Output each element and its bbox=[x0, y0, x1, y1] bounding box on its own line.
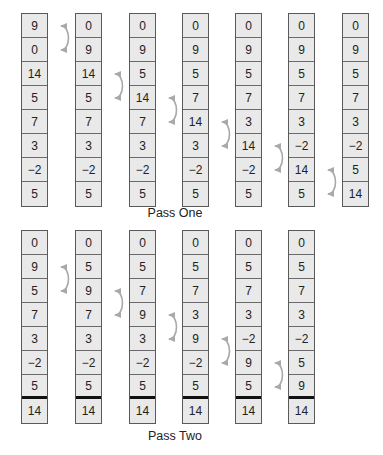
pass-one-column-7: 0 9 5 7 3 −2 5 14 bbox=[342, 13, 369, 207]
array-cell: 9 bbox=[76, 279, 101, 303]
array-cell: 0 bbox=[343, 14, 368, 38]
array-cell: 7 bbox=[22, 110, 47, 134]
array-cell: 0 bbox=[236, 14, 261, 38]
array-cell: −2 bbox=[236, 327, 261, 351]
swap-arrow-icon bbox=[61, 267, 69, 291]
array-cell: 5 bbox=[76, 86, 101, 110]
array-cell: 0 bbox=[289, 14, 314, 38]
pass-two-column-2: 0 5 9 7 3 −2 5 14 bbox=[75, 230, 102, 424]
pass-one-column-2: 0 9 14 5 7 3 −2 5 bbox=[75, 13, 102, 207]
array-cell: 14 bbox=[343, 182, 368, 206]
array-cell: 5 bbox=[22, 375, 47, 399]
array-cell: 3 bbox=[289, 110, 314, 134]
pass-two-column-3: 0 5 7 9 3 −2 5 14 bbox=[129, 230, 156, 424]
swap-arrow-icon bbox=[115, 291, 123, 315]
array-cell: −2 bbox=[130, 351, 155, 375]
array-cell: 3 bbox=[22, 134, 47, 158]
array-cell: 5 bbox=[289, 62, 314, 86]
array-cell: 7 bbox=[130, 110, 155, 134]
array-cell: 3 bbox=[183, 134, 208, 158]
array-cell: 9 bbox=[130, 303, 155, 327]
array-cell: 5 bbox=[130, 182, 155, 206]
array-cell: −2 bbox=[289, 327, 314, 351]
array-cell: 0 bbox=[130, 231, 155, 255]
pass-one-column-6: 0 9 5 7 3 −2 14 5 bbox=[288, 13, 315, 207]
array-cell: 5 bbox=[236, 255, 261, 279]
array-cell: 7 bbox=[183, 279, 208, 303]
array-cell: 5 bbox=[183, 375, 208, 399]
array-cell: 14 bbox=[289, 158, 314, 182]
pass-one-column-4: 0 9 5 7 14 3 −2 5 bbox=[182, 13, 209, 207]
array-cell: 3 bbox=[76, 327, 101, 351]
array-cell: 5 bbox=[289, 351, 314, 375]
sorted-array-cell: 14 bbox=[183, 399, 208, 423]
array-cell: 0 bbox=[289, 231, 314, 255]
array-cell: 3 bbox=[236, 110, 261, 134]
array-cell: 3 bbox=[343, 110, 368, 134]
swap-arrow-icon bbox=[222, 122, 230, 146]
array-cell: −2 bbox=[22, 351, 47, 375]
array-cell: −2 bbox=[343, 134, 368, 158]
sorted-array-cell: 14 bbox=[22, 399, 47, 423]
array-cell: 5 bbox=[236, 182, 261, 206]
array-cell: 3 bbox=[130, 134, 155, 158]
swap-arrow-icon bbox=[328, 170, 336, 194]
array-cell: 0 bbox=[22, 38, 47, 62]
array-cell: 5 bbox=[76, 255, 101, 279]
array-cell: 9 bbox=[289, 38, 314, 62]
array-cell: −2 bbox=[130, 158, 155, 182]
array-cell: 3 bbox=[183, 303, 208, 327]
array-cell: 5 bbox=[183, 62, 208, 86]
array-cell: 0 bbox=[76, 231, 101, 255]
array-cell: 9 bbox=[130, 38, 155, 62]
array-cell: 0 bbox=[76, 14, 101, 38]
array-cell: 5 bbox=[22, 86, 47, 110]
array-cell: −2 bbox=[76, 351, 101, 375]
array-cell: 5 bbox=[130, 375, 155, 399]
array-cell: 5 bbox=[183, 255, 208, 279]
array-cell: 3 bbox=[236, 303, 261, 327]
array-cell: 0 bbox=[130, 14, 155, 38]
array-cell: 5 bbox=[343, 62, 368, 86]
array-cell: 3 bbox=[76, 134, 101, 158]
array-cell: 14 bbox=[183, 110, 208, 134]
sorted-array-cell: 14 bbox=[236, 399, 261, 423]
array-cell: 0 bbox=[236, 231, 261, 255]
array-cell: 0 bbox=[22, 231, 47, 255]
array-cell: 14 bbox=[130, 86, 155, 110]
sorted-array-cell: 14 bbox=[130, 399, 155, 423]
pass-one-column-5: 0 9 5 7 3 14 −2 5 bbox=[235, 13, 262, 207]
swap-arrow-icon bbox=[169, 98, 177, 122]
array-cell: 9 bbox=[236, 351, 261, 375]
swap-arrow-icon bbox=[222, 339, 230, 363]
array-cell: 7 bbox=[289, 279, 314, 303]
pass-two-column-1: 0 9 5 7 3 −2 5 14 bbox=[21, 230, 48, 424]
array-cell: 7 bbox=[76, 303, 101, 327]
array-cell: 5 bbox=[183, 182, 208, 206]
array-cell: 7 bbox=[22, 303, 47, 327]
array-cell: 3 bbox=[130, 327, 155, 351]
pass-two-column-6: 0 5 7 3 −2 5 9 14 bbox=[288, 230, 315, 424]
array-cell: −2 bbox=[22, 158, 47, 182]
array-cell: 9 bbox=[343, 38, 368, 62]
array-cell: 5 bbox=[76, 375, 101, 399]
array-cell: 7 bbox=[236, 86, 261, 110]
array-cell: 5 bbox=[130, 255, 155, 279]
array-cell: 5 bbox=[289, 182, 314, 206]
array-cell: −2 bbox=[183, 351, 208, 375]
array-cell: 3 bbox=[289, 303, 314, 327]
array-cell: 5 bbox=[22, 279, 47, 303]
swap-arrow-icon bbox=[275, 363, 283, 387]
array-cell: −2 bbox=[236, 158, 261, 182]
swap-arrow-icon bbox=[275, 146, 283, 170]
array-cell: 14 bbox=[22, 62, 47, 86]
array-cell: −2 bbox=[76, 158, 101, 182]
array-cell: 14 bbox=[76, 62, 101, 86]
array-cell: 14 bbox=[236, 134, 261, 158]
pass-one-column-3: 0 9 5 14 7 3 −2 5 bbox=[129, 13, 156, 207]
array-cell: 7 bbox=[76, 110, 101, 134]
array-cell: 3 bbox=[22, 327, 47, 351]
pass-two-label: Pass Two bbox=[115, 429, 235, 443]
array-cell: 5 bbox=[289, 255, 314, 279]
array-cell: 5 bbox=[343, 158, 368, 182]
